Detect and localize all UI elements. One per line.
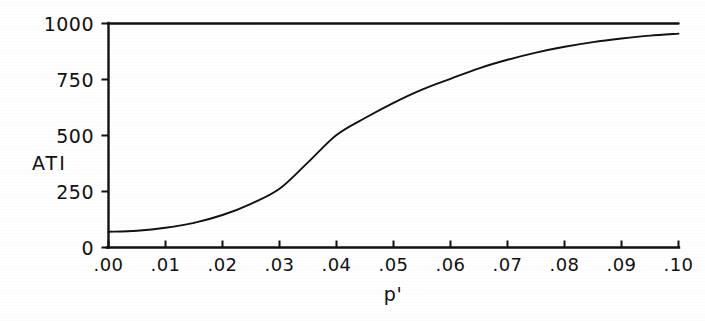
x-tick-label: .06 [435, 254, 465, 275]
y-axis-title: ATI [32, 152, 67, 174]
x-tick-label: .04 [321, 254, 351, 275]
x-tick-label: .07 [492, 254, 522, 275]
x-tick-label: .00 [93, 254, 123, 275]
data-series-group [109, 24, 679, 232]
figure-canvas: 02505007501000 .00.01.02.03.04.05.06.07.… [0, 0, 705, 321]
axis-frame [107, 23, 679, 248]
x-tick-label: .03 [264, 254, 294, 275]
x-tick-label: .10 [663, 254, 693, 275]
y-tick-label: 1000 [10, 13, 94, 35]
x-tick-label: .01 [150, 254, 180, 275]
y-tick-label: 0 [10, 237, 94, 259]
x-tick-label: .05 [378, 254, 408, 275]
x-axis-title: p' [384, 283, 402, 305]
y-tick-label: 500 [10, 125, 94, 147]
x-tick-label: .02 [207, 254, 237, 275]
series-line-0 [109, 34, 679, 232]
y-tick-label: 250 [10, 181, 94, 203]
x-tick-label: .09 [606, 254, 636, 275]
x-tick-label: .08 [549, 254, 579, 275]
y-tick-label: 750 [10, 69, 94, 91]
